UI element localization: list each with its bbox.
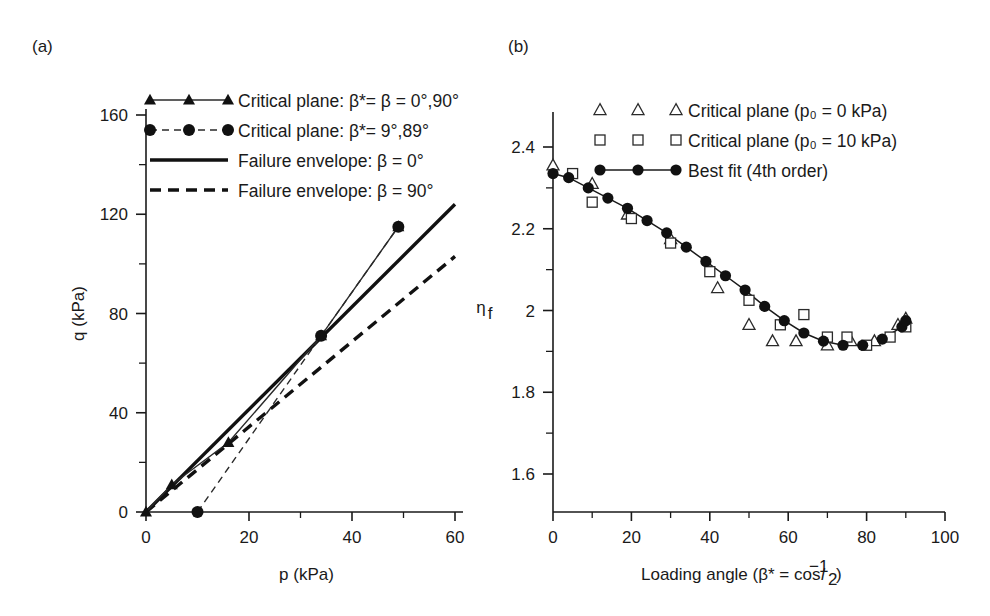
panel-b-bestfit-point (877, 334, 888, 345)
panel-b-legend: Critical plane (p₀ = 0 kPa)Critical plan… (594, 101, 897, 181)
panel-b-square-point (666, 238, 676, 248)
panel-b-bestfit-point (759, 301, 770, 312)
panel-b-ytick-label: 2 (526, 302, 535, 321)
panel-a-ytick-label: 80 (109, 305, 128, 324)
panel-a-label: (a) (32, 37, 53, 56)
panel-b-ylabel-sub: f (488, 304, 493, 323)
panel-b-legend-label: Critical plane (p₀ = 10 kPa) (688, 131, 897, 151)
panel-b-bestfit-point (798, 327, 809, 338)
panel-a-xtick-label: 0 (141, 528, 150, 547)
panel-a-circle-point (192, 506, 204, 518)
panel-b-bestfit-point (739, 284, 750, 295)
panel-a-ytick-label: 0 (119, 503, 128, 522)
panel-b-square-point (799, 310, 809, 320)
figure-svg: (a) (b) 020406004080120160p (kPa)q (kPa)… (0, 0, 990, 616)
panel-b-bestfit-point (700, 256, 711, 267)
panel-b-ylabel: ηf (476, 298, 492, 323)
panel-b-bestfit-point (720, 270, 731, 281)
panel-b-ylabel-main: η (476, 298, 485, 317)
panel-a-ytick-label: 120 (100, 205, 128, 224)
panel-b-bestfit-point (661, 227, 672, 238)
panel-a-legend-label: Critical plane: β*= 9°,89° (238, 121, 429, 141)
legend-circle-filled-icon (632, 164, 643, 175)
panel-a-legend-item: Failure envelope: β = 0° (150, 151, 424, 171)
panel-b-bestfit-point (563, 172, 574, 183)
legend-triangle-icon (183, 94, 195, 105)
legend-circle-icon (183, 124, 195, 136)
legend-square-open-icon (671, 135, 681, 145)
panel-a-legend-item: Failure envelope: β = 90° (150, 181, 434, 201)
panel-a-circle-point (315, 330, 327, 342)
panel-a-xtick-label: 20 (240, 528, 259, 547)
panel-b-triangle-point (743, 319, 755, 330)
panel-a-ytick-label: 40 (109, 404, 128, 423)
panel-b-xlabel: Loading angle (β* = cos−1l2) (641, 557, 842, 589)
legend-triangle-icon (144, 94, 156, 105)
panel-b-square-point (587, 197, 597, 207)
panel-b-bestfit-point (900, 315, 911, 326)
panel-a-legend-label: Failure envelope: β = 0° (238, 151, 424, 171)
panel-b-bestfit-point (857, 340, 868, 351)
panel-b-bestfit-point (622, 203, 633, 214)
panel-a-failure-envelope-beta0 (146, 204, 455, 512)
panel-a-legend-label: Failure envelope: β = 90° (238, 181, 434, 201)
panel-a-xtick-label: 40 (343, 528, 362, 547)
panel-b-legend-item: Critical plane (p₀ = 0 kPa) (594, 101, 887, 121)
panel-b-ytick-label: 1.8 (511, 383, 535, 402)
panel-a-ylabel: q (kPa) (69, 286, 88, 341)
legend-circle-icon (144, 124, 156, 136)
panel-b-ytick-label: 1.6 (511, 465, 535, 484)
panel-a-xtick-label: 60 (446, 528, 465, 547)
panel-b-xlabel-prefix: Loading angle (β* = cos (641, 565, 820, 584)
panel-b-triangle-point (767, 335, 779, 346)
panel-b-bestfit-point (681, 242, 692, 253)
panel-b-xlabel-sup: −1 (809, 557, 828, 576)
panel-a-legend-item: Critical plane: β*= β = 0°,90° (144, 91, 459, 111)
legend-triangle-open-icon (632, 104, 644, 115)
legend-triangle-open-icon (670, 104, 682, 115)
panel-b-xtick-label: 0 (548, 528, 557, 547)
panel-b-bestfit-point (779, 315, 790, 326)
panel-b-legend-label: Best fit (4th order) (688, 161, 828, 181)
panel-a-critical-plane-0-90-line (146, 227, 398, 512)
panel-b-square-point (705, 267, 715, 277)
panel-a-xlabel: p (kPa) (279, 565, 334, 584)
panel-a-failure-envelope-beta90 (146, 256, 455, 512)
panel-b-bestfit-point (818, 336, 829, 347)
panel-b-xtick-label: 80 (857, 528, 876, 547)
legend-triangle-icon (222, 94, 234, 105)
panel-b-square-point (744, 295, 754, 305)
panel-b-ytick-label: 2.4 (511, 138, 535, 157)
panel-b-square-point (626, 214, 636, 224)
panel-a-circle-point (392, 221, 404, 233)
legend-square-open-icon (633, 135, 643, 145)
panel-a-ytick-label: 160 (100, 106, 128, 125)
legend-triangle-open-icon (594, 104, 606, 115)
panel-b-xtick-label: 20 (622, 528, 641, 547)
legend-circle-filled-icon (594, 164, 605, 175)
panel-b-label: (b) (508, 37, 529, 56)
panel-b-legend-item: Best fit (4th order) (594, 161, 828, 181)
panel-b-bestfit-point (602, 192, 613, 203)
panel-b-xtick-label: 60 (779, 528, 798, 547)
panel-b-legend-label: Critical plane (p₀ = 0 kPa) (688, 101, 887, 121)
legend-circle-icon (222, 124, 234, 136)
panel-b-bestfit-point (837, 340, 848, 351)
panel-a-legend-item: Critical plane: β*= 9°,89° (144, 121, 429, 141)
panel-a-legend: Critical plane: β*= β = 0°,90°Critical p… (144, 91, 459, 201)
legend-square-open-icon (595, 135, 605, 145)
panel-a-legend-label: Critical plane: β*= β = 0°,90° (238, 91, 459, 111)
panel-b-bestfit-point (547, 168, 558, 179)
panel-b-xtick-label: 40 (700, 528, 719, 547)
panel-b-ytick-label: 2.2 (511, 220, 535, 239)
panel-b-xlabel-suffix: ) (836, 565, 842, 584)
panel-b-legend-item: Critical plane (p₀ = 10 kPa) (595, 131, 897, 151)
legend-circle-filled-icon (670, 164, 681, 175)
panel-b-bestfit-point (583, 182, 594, 193)
panel-b-plot: 0204060801001.61.822.22.4ηfLoading angle… (476, 101, 959, 589)
figure-container: (a) (b) 020406004080120160p (kPa)q (kPa)… (0, 0, 990, 616)
panel-b-xtick-label: 100 (931, 528, 959, 547)
panel-b-bestfit-point (641, 215, 652, 226)
panel-a-plot: 020406004080120160p (kPa)q (kPa)Critical… (69, 91, 464, 584)
panel-b-triangle-point (712, 282, 724, 293)
